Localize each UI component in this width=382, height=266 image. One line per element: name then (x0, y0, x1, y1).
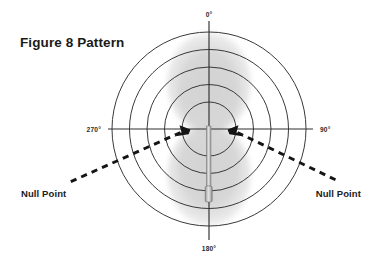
figure-title: Figure 8 Pattern (20, 35, 124, 50)
figure-canvas: Figure 8 Pattern 0° 90° 180° 270° Null P… (0, 0, 382, 266)
null-leader-right (238, 133, 341, 183)
axis-label-180deg: 180° (202, 245, 217, 252)
null-point-label-right: Null Point (316, 188, 362, 199)
axis-label-90deg: 90° (320, 126, 331, 133)
axis-label-270deg: 270° (87, 126, 102, 133)
antenna-base (205, 186, 212, 202)
null-point-label-left: Null Point (21, 188, 67, 199)
figure-8-pattern-diagram: Figure 8 Pattern 0° 90° 180° 270° Null P… (0, 0, 382, 266)
null-leader-left (70, 133, 181, 183)
axis-label-0deg: 0° (206, 11, 213, 18)
antenna-element (205, 126, 212, 202)
